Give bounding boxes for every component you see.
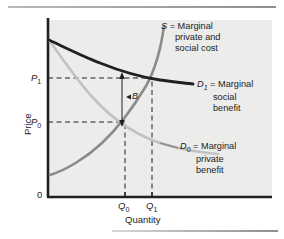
gap-b-label: B [132, 91, 138, 102]
supply-curve-label: S = Marginal private and social cost [161, 21, 220, 54]
d0-label-line3: benefit [180, 165, 236, 176]
d1-symbol: D1 [197, 79, 208, 89]
d1-label-line2: social [197, 92, 253, 103]
demand-private-curve-label: D0 = Marginal private benefit [180, 141, 236, 176]
d0-label-line2: private [180, 154, 236, 165]
externality-diagram-figure: S = Marginal private and social cost D1 … [0, 0, 284, 239]
y-axis-title: Price [22, 113, 33, 135]
d1-label-line3: benefit [197, 103, 253, 114]
supply-label-line3: social cost [161, 43, 220, 54]
d1-equation-line1: = Marginal [210, 79, 253, 89]
supply-equation-line1: = Marginal [170, 21, 213, 31]
supply-label-line2: private and [161, 32, 220, 43]
supply-symbol: S [161, 21, 167, 31]
x-tick-label-q0: Q0 [118, 200, 129, 214]
x-axis-title: Quantity [125, 214, 160, 225]
d0-symbol: D0 [180, 141, 191, 151]
demand-social-curve-label: D1 = Marginal social benefit [197, 79, 253, 114]
origin-label: 0 [37, 189, 42, 200]
chart-canvas [0, 0, 284, 239]
x-tick-label-q1: Q1 [146, 200, 157, 214]
y-tick-label-p1: P1 [31, 72, 41, 86]
d0-equation-line1: = Marginal [193, 141, 236, 151]
